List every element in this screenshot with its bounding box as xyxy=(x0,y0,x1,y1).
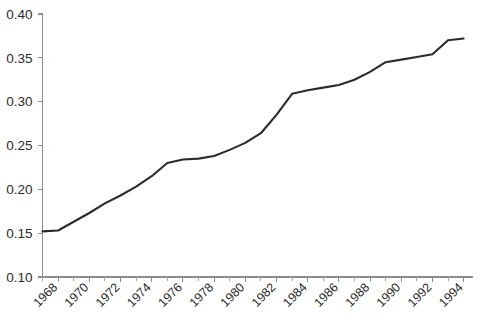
line-chart: 0.100.150.200.250.300.350.40 19681970197… xyxy=(0,0,483,328)
chart-container: 0.100.150.200.250.300.350.40 19681970197… xyxy=(0,0,483,328)
y-tick-label: 0.10 xyxy=(6,270,32,285)
y-tick-label: 0.20 xyxy=(6,182,32,197)
x-axis-ticks: 1968197019721974197619781980198219841986… xyxy=(31,277,466,310)
x-tick-label: 1990 xyxy=(374,280,404,310)
x-tick-label: 1982 xyxy=(249,280,279,310)
x-tick-label: 1986 xyxy=(311,280,341,310)
x-tick-label: 1976 xyxy=(155,280,185,310)
y-axis-ticks: 0.100.150.200.250.300.350.40 xyxy=(6,7,42,285)
x-tick-label: 1984 xyxy=(280,280,310,310)
y-tick-label: 0.35 xyxy=(6,51,32,66)
x-tick-label: 1994 xyxy=(436,280,466,310)
data-line-series-1 xyxy=(43,39,464,232)
x-tick-label: 1980 xyxy=(218,280,248,310)
y-tick-label: 0.30 xyxy=(6,94,32,109)
x-tick-label: 1992 xyxy=(405,280,435,310)
y-tick-label: 0.15 xyxy=(6,226,32,241)
data-series-group xyxy=(43,39,464,232)
y-tick-label: 0.40 xyxy=(6,7,32,22)
x-tick-label: 1970 xyxy=(62,280,92,310)
x-tick-label: 1988 xyxy=(343,280,373,310)
x-tick-label: 1972 xyxy=(93,280,123,310)
x-tick-label: 1974 xyxy=(124,280,154,310)
chart-axes xyxy=(43,14,474,277)
x-tick-label: 1978 xyxy=(187,280,217,310)
y-tick-label: 0.25 xyxy=(6,138,32,153)
x-tick-label: 1968 xyxy=(31,280,61,310)
axis-spine xyxy=(43,14,474,277)
